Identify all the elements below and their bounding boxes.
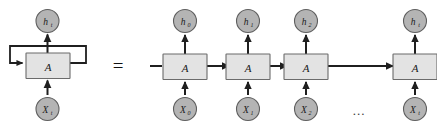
folded-input-label: X bbox=[42, 105, 50, 115]
input-subscript-0: 0 bbox=[188, 110, 191, 116]
folded-output-label: h bbox=[43, 17, 48, 27]
folded-cell-label: A bbox=[44, 61, 52, 73]
timestep-group-0: A h 0 X 0 bbox=[163, 10, 207, 121]
output-subscript-2: 2 bbox=[309, 22, 312, 28]
input-label-t: X bbox=[409, 105, 417, 115]
timestep-group-1: A h 1 X 1 bbox=[226, 10, 270, 121]
timestep-group-2: A h 2 X 2 bbox=[284, 10, 328, 121]
input-subscript-1: 1 bbox=[251, 110, 254, 116]
input-subscript-2: 2 bbox=[309, 110, 312, 116]
output-label-0: h bbox=[181, 17, 186, 27]
timestep-group-t: A h t X t bbox=[393, 10, 437, 121]
input-label-0: X bbox=[179, 105, 187, 115]
output-label-1: h bbox=[244, 17, 249, 27]
output-label-2: h bbox=[302, 17, 307, 27]
input-label-1: X bbox=[242, 105, 250, 115]
output-label-t: h bbox=[411, 17, 416, 27]
cell-label-0: A bbox=[181, 62, 189, 74]
ellipsis-label: ... bbox=[353, 103, 366, 118]
output-subscript-1: 1 bbox=[251, 22, 254, 28]
unrolled-rnn-group: A h 0 X 0 A h 1 X 1 bbox=[150, 10, 437, 121]
output-subscript-0: 0 bbox=[188, 22, 191, 28]
cell-label-2: A bbox=[302, 62, 310, 74]
rnn-unrolling-diagram: A h t X t = A bbox=[0, 0, 437, 131]
cell-label-t: A bbox=[411, 62, 419, 74]
input-label-2: X bbox=[300, 105, 308, 115]
diagram-canvas: A h t X t = A bbox=[0, 0, 437, 131]
cell-label-1: A bbox=[244, 62, 252, 74]
equals-sign: = bbox=[113, 55, 124, 76]
folded-rnn-group: A h t X t bbox=[10, 10, 86, 121]
